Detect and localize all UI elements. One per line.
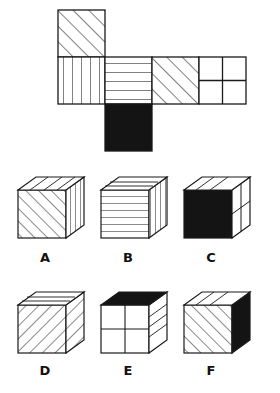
option-e-cube xyxy=(101,292,167,353)
puzzle-canvas: A B xyxy=(0,0,280,393)
option-c-label: C xyxy=(206,250,216,265)
option-e-label: E xyxy=(124,363,133,378)
net-face-far-right xyxy=(199,57,246,104)
option-f-cube xyxy=(184,292,250,353)
option-d-label: D xyxy=(40,363,51,378)
net-face-bottom xyxy=(105,104,152,151)
option-a-label: A xyxy=(40,250,50,265)
puzzle-figure: A B xyxy=(0,0,280,393)
net-face-right xyxy=(152,57,199,104)
option-b-label: B xyxy=(123,250,133,265)
option-f-label: F xyxy=(207,363,216,378)
option-d-cube xyxy=(18,292,84,353)
net-face-center xyxy=(105,57,152,104)
option-b-cube xyxy=(101,177,167,238)
net-face-left xyxy=(58,57,105,104)
net-face-top xyxy=(58,10,105,57)
option-c-cube xyxy=(184,177,250,238)
option-a-cube xyxy=(18,177,84,238)
